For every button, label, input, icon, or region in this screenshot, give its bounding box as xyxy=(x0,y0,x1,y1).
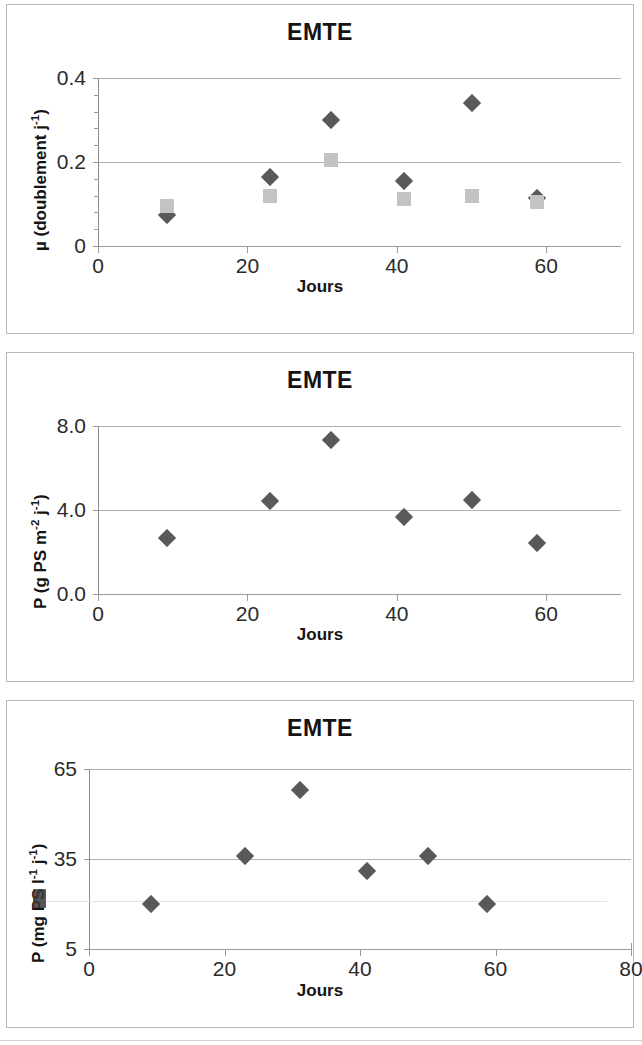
x-tick xyxy=(546,246,547,253)
y-tick-label: 0.0 xyxy=(57,582,86,606)
x-tick xyxy=(247,594,248,601)
page-bottom-scan-line xyxy=(0,1040,642,1041)
plot-area-1: 00.20.40204060 xyxy=(98,78,621,246)
y-tick-label: 0.2 xyxy=(57,150,86,174)
gridline-y-2 xyxy=(98,426,621,427)
y-axis-line xyxy=(98,78,99,246)
y-tick-label: 8.0 xyxy=(57,414,86,438)
data-point-square xyxy=(263,189,277,203)
chart-title-3: EMTE xyxy=(7,715,633,742)
figure-sheet: EMTE 00.20.40204060 Joursµ (doublement j… xyxy=(0,0,642,1045)
x-tick-label: 0 xyxy=(83,957,95,981)
x-tick-label: 40 xyxy=(348,957,371,981)
x-tick xyxy=(89,949,90,956)
x-axis-title-3: Jours xyxy=(7,981,633,1001)
x-tick xyxy=(98,594,99,601)
y-tick-major-2 xyxy=(84,769,89,770)
data-point-diamond xyxy=(291,781,309,799)
y-tick-label: 4.0 xyxy=(57,498,86,522)
y-axis-line xyxy=(89,769,90,949)
x-tick-label: 20 xyxy=(213,957,236,981)
plot-area-2: 0.04.08.00204060 xyxy=(98,426,621,594)
x-tick xyxy=(225,949,226,956)
x-tick xyxy=(397,246,398,253)
gridline-y-1 xyxy=(89,859,631,860)
data-point-diamond xyxy=(236,847,254,865)
data-point-diamond xyxy=(322,111,340,129)
x-axis-title-1: Jours xyxy=(7,277,633,297)
data-point-diamond xyxy=(261,167,279,185)
data-point-diamond xyxy=(358,862,376,880)
plot-area-3: 53565020406080 xyxy=(89,769,631,949)
data-point-square xyxy=(397,192,411,206)
chart-panel-1: EMTE 00.20.40204060 Joursµ (doublement j… xyxy=(6,4,634,334)
data-point-square xyxy=(160,199,174,213)
x-tick xyxy=(98,246,99,253)
data-point-diamond xyxy=(395,172,413,190)
y-tick-major-2 xyxy=(93,426,98,427)
x-tick xyxy=(360,949,361,956)
x-tick-label: 20 xyxy=(236,254,259,278)
x-axis-line xyxy=(98,594,621,595)
y-tick-major-2 xyxy=(93,78,98,79)
y-tick-major-1 xyxy=(93,510,98,511)
chart-panel-3: EMTE 53565020406080 JoursP (mg PS l-1 j-… xyxy=(6,700,634,1028)
y-tick-label: 65 xyxy=(54,757,77,781)
chart-title-2: EMTE xyxy=(7,367,633,394)
data-point-diamond xyxy=(142,895,160,913)
data-point-diamond xyxy=(261,491,279,509)
x-axis-line xyxy=(98,246,621,247)
x-tick-label: 60 xyxy=(535,254,558,278)
data-point-diamond xyxy=(158,529,176,547)
x-tick xyxy=(631,949,632,956)
y-tick-minor xyxy=(94,112,98,113)
x-tick-label: 80 xyxy=(619,957,642,981)
x-tick-label: 0 xyxy=(92,254,104,278)
x-axis-right-cap xyxy=(631,943,632,950)
scan-faint-line-artifact xyxy=(47,901,607,902)
y-tick-minor xyxy=(94,212,98,213)
x-tick-label: 0 xyxy=(92,602,104,626)
y-tick-minor xyxy=(94,196,98,197)
y-tick-minor xyxy=(94,145,98,146)
y-tick-label: 0.4 xyxy=(57,66,86,90)
x-tick xyxy=(397,594,398,601)
y-tick-minor xyxy=(94,95,98,96)
y-tick-major-1 xyxy=(93,162,98,163)
x-tick xyxy=(247,246,248,253)
x-tick-label: 60 xyxy=(484,957,507,981)
y-axis-title-2: P (g PS m-2 j-1) xyxy=(31,494,51,609)
gridline-y-2 xyxy=(89,769,631,770)
x-tick xyxy=(496,949,497,956)
gridline-y-1 xyxy=(98,162,621,163)
data-point-square xyxy=(324,153,338,167)
x-axis-title-2: Jours xyxy=(7,625,633,645)
chart-panel-2: EMTE 0.04.08.00204060 JoursP (g PS m-2 j… xyxy=(6,352,634,682)
data-point-diamond xyxy=(462,490,480,508)
y-tick-minor xyxy=(94,128,98,129)
y-tick-minor xyxy=(94,229,98,230)
gridline-y-2 xyxy=(98,78,621,79)
chart-title-1: EMTE xyxy=(7,19,633,46)
data-point-diamond xyxy=(419,847,437,865)
x-tick-label: 40 xyxy=(385,602,408,626)
y-tick-label: 0 xyxy=(74,234,86,258)
x-tick-label: 60 xyxy=(535,602,558,626)
x-tick-label: 20 xyxy=(236,602,259,626)
y-tick-minor xyxy=(94,179,98,180)
x-tick-label: 40 xyxy=(385,254,408,278)
data-point-square xyxy=(530,195,544,209)
x-tick xyxy=(546,594,547,601)
y-tick-label: 35 xyxy=(54,847,77,871)
y-axis-title-1: µ (doublement j-1) xyxy=(31,109,51,251)
data-point-diamond xyxy=(322,430,340,448)
scan-smudge-artifact xyxy=(33,889,46,908)
data-point-diamond xyxy=(478,895,496,913)
y-axis-line xyxy=(98,426,99,594)
data-point-diamond xyxy=(462,94,480,112)
data-point-square xyxy=(465,189,479,203)
y-tick-label: 5 xyxy=(65,937,77,961)
data-point-diamond xyxy=(528,533,546,551)
gridline-y-1 xyxy=(98,510,621,511)
y-tick-major-1 xyxy=(84,859,89,860)
